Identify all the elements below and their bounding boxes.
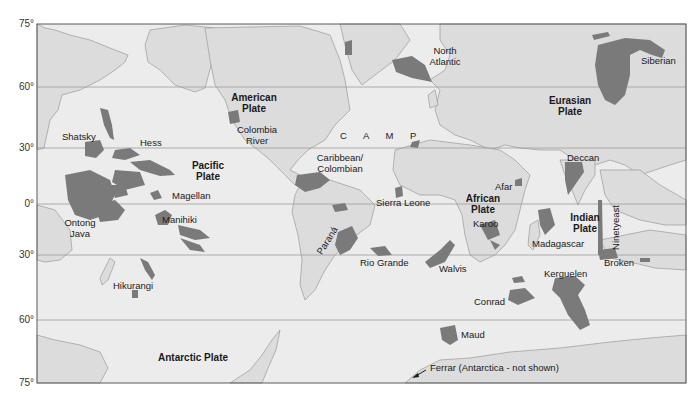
plate-label-pacific: PacificPlate [183, 160, 233, 182]
plate-label-african: AfricanPlate [458, 193, 508, 215]
lat-label-75n: 75° [0, 19, 34, 29]
map-canvas [0, 0, 694, 395]
province-label-siberian: Siberian [641, 55, 676, 66]
ferrar-annotation: Ferrar (Antarctica - not shown) [430, 362, 559, 373]
province-label-north-atlantic: NorthAtlantic [423, 45, 467, 67]
province-label-kerguelen: Kerguelen [544, 268, 587, 279]
province-label-rio-grande: Rio Grande [360, 257, 409, 268]
province-label-camp: C A M P [340, 130, 423, 141]
province-label-manihiki: Manihiki [162, 214, 197, 225]
plate-label-indian: IndianPlate [560, 212, 610, 234]
plate-label-eurasian: EurasianPlate [540, 95, 600, 117]
lat-label-0: 0° [0, 199, 34, 209]
province-label-afar: Afar [495, 181, 512, 192]
province-label-maud: Maud [461, 329, 485, 340]
province-label-ninetyeast: Ninetyeast [610, 198, 621, 258]
lat-label-60s: 60° [0, 315, 34, 325]
province-label-ontong-java: OntongJava [60, 217, 100, 239]
province-label-shatsky: Shatsky [62, 131, 96, 142]
province-label-magellan: Magellan [172, 190, 211, 201]
lat-label-30n: 30° [0, 143, 34, 153]
lat-label-60n: 60° [0, 82, 34, 92]
province-label-karoo: Karoo [473, 218, 498, 229]
province-label-hikurangi: Hikurangi [113, 280, 153, 291]
province-label-hess: Hess [140, 137, 162, 148]
plate-label-antarctic: Antarctic Plate [158, 352, 228, 363]
province-label-deccan: Deccan [567, 152, 599, 163]
province-label-colombia-river: ColombiaRiver [232, 124, 282, 146]
province-label-conrad: Conrad [474, 296, 505, 307]
province-label-sierra-leone: Sierra Leone [376, 197, 430, 208]
province-label-madagascar: Madagascar [532, 238, 584, 249]
province-label-broken: Broken [604, 257, 634, 268]
province-label-walvis: Walvis [439, 263, 467, 274]
province-label-caribbean-colombian: Caribbean/Colombian [312, 152, 368, 174]
lip-world-map: 75° 60° 30° 0° 30° 60° 75° AmericanPlate… [0, 0, 694, 395]
lat-label-30s: 30° [0, 250, 34, 260]
plate-label-american: AmericanPlate [224, 92, 284, 114]
lat-label-75s: 75° [0, 378, 34, 388]
